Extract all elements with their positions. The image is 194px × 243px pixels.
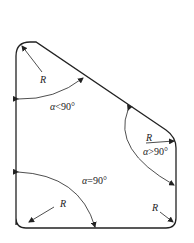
angle-label-top-left: α<90°	[50, 101, 75, 112]
radius-label-bottom-left: R	[59, 198, 66, 209]
radius-label-bottom-right: R	[151, 202, 158, 213]
angle-label-right: α>90°	[143, 146, 168, 157]
radius-leader-top-left	[22, 46, 42, 72]
radius-leader-bottom-left	[29, 207, 54, 222]
angle-label-bottom-left: α=90°	[82, 175, 107, 186]
radius-leader-bottom-right	[160, 212, 173, 222]
radius-label-top-left: R	[39, 74, 46, 85]
rounded-corner-diagram: R α<90° R α>90° α=90° R R	[0, 0, 194, 243]
radius-label-right: R	[145, 132, 152, 143]
angle-arc-top-left	[18, 78, 83, 99]
